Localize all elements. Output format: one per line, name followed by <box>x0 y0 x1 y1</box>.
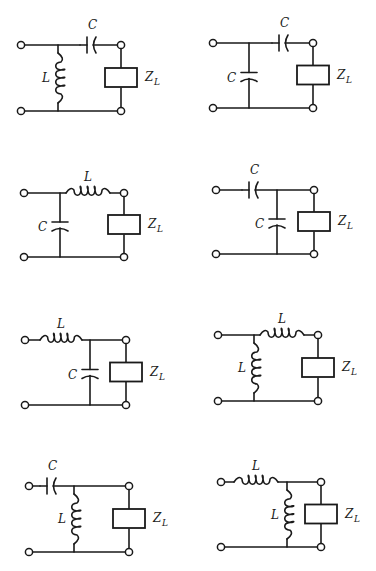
input-terminal <box>217 543 224 550</box>
series-capacitor-label: C <box>250 163 259 177</box>
series-inductor-label: L <box>83 170 92 184</box>
inductor-coil <box>260 328 304 337</box>
network-3: LCZL <box>20 170 163 261</box>
input-terminal <box>20 253 27 260</box>
series-capacitor-label: C <box>280 16 289 30</box>
network-7: CLZL <box>25 459 168 556</box>
output-terminal <box>310 186 317 193</box>
load-subscript: L <box>156 224 163 234</box>
inductor-symbol <box>252 343 261 393</box>
inductor-symbol <box>285 490 294 539</box>
matching-networks-figure: CLZLCCZLLCZLCCZLLCZLLLZLCLZLLLZL <box>0 0 376 571</box>
output-terminal <box>122 336 129 343</box>
network-1: CLZL <box>17 18 160 115</box>
load-subscript: L <box>158 372 165 382</box>
output-terminal <box>309 39 316 46</box>
input-terminal <box>209 104 216 111</box>
series-inductor-label: L <box>56 317 65 331</box>
input-terminal <box>209 39 216 46</box>
input-terminal <box>21 336 28 343</box>
output-terminal <box>125 548 132 555</box>
output-terminal <box>314 331 321 338</box>
input-terminal <box>17 107 24 114</box>
inductor-coil <box>252 343 261 393</box>
load-label: Z <box>149 365 159 379</box>
load-impedance-box <box>298 212 330 231</box>
shunt-capacitor-label: C <box>227 71 236 85</box>
inductor-symbol <box>56 53 65 103</box>
input-terminal <box>20 189 27 196</box>
load-label: Z <box>341 360 351 374</box>
load-subscript: L <box>346 221 353 231</box>
shunt-capacitor-label: C <box>38 220 47 234</box>
output-terminal <box>317 478 324 485</box>
inductor-coil <box>234 475 278 484</box>
network-2: CCZL <box>209 16 352 112</box>
inductor-coil <box>40 333 82 342</box>
load-impedance-box <box>105 68 137 87</box>
load-impedance-box <box>113 509 145 528</box>
shunt-capacitor-label: C <box>68 368 77 382</box>
input-terminal <box>17 41 24 48</box>
load-subscript: L <box>153 77 160 87</box>
inductor-symbol <box>72 494 81 544</box>
inductor-coil <box>72 494 81 544</box>
input-terminal <box>214 397 221 404</box>
load-impedance-box <box>297 66 329 85</box>
input-terminal <box>25 482 32 489</box>
output-terminal <box>117 41 124 48</box>
load-impedance-box <box>302 358 334 377</box>
load-label: Z <box>147 217 157 231</box>
output-terminal <box>125 482 132 489</box>
input-terminal <box>217 478 224 485</box>
series-inductor-label: L <box>251 459 260 473</box>
shunt-inductor-label: L <box>41 71 50 85</box>
network-5: LCZL <box>21 317 165 409</box>
load-subscript: L <box>350 367 357 377</box>
output-terminal <box>317 543 324 550</box>
shunt-inductor-label: L <box>270 508 279 522</box>
network-4: CCZL <box>212 163 353 258</box>
load-impedance-box <box>108 215 140 234</box>
network-6: LLZL <box>214 312 357 405</box>
output-terminal <box>120 189 127 196</box>
load-label: Z <box>344 507 354 521</box>
load-impedance-box <box>305 505 337 524</box>
inductor-symbol <box>234 475 278 484</box>
load-label: Z <box>144 70 154 84</box>
shunt-capacitor-label: C <box>255 217 264 231</box>
shunt-inductor-label: L <box>237 361 246 375</box>
inductor-symbol <box>66 186 110 195</box>
shunt-inductor-label: L <box>57 512 66 526</box>
inductor-symbol <box>40 333 82 342</box>
inductor-symbol <box>260 328 304 337</box>
load-subscript: L <box>345 75 352 85</box>
output-terminal <box>309 104 316 111</box>
network-8: LLZL <box>217 459 360 551</box>
input-terminal <box>25 548 32 555</box>
output-terminal <box>120 253 127 260</box>
inductor-coil <box>66 186 110 195</box>
series-inductor-label: L <box>277 312 286 326</box>
series-capacitor-label: C <box>48 459 57 473</box>
load-subscript: L <box>161 518 168 528</box>
inductor-coil <box>56 53 65 103</box>
output-terminal <box>314 397 321 404</box>
load-label: Z <box>336 68 346 82</box>
output-terminal <box>310 250 317 257</box>
input-terminal <box>212 250 219 257</box>
load-impedance-box <box>110 363 142 382</box>
load-subscript: L <box>353 514 360 524</box>
inductor-coil <box>285 490 294 539</box>
load-label: Z <box>152 511 162 525</box>
output-terminal <box>122 401 129 408</box>
input-terminal <box>21 401 28 408</box>
input-terminal <box>212 186 219 193</box>
output-terminal <box>117 107 124 114</box>
series-capacitor-label: C <box>88 18 97 32</box>
input-terminal <box>214 331 221 338</box>
load-label: Z <box>337 214 347 228</box>
